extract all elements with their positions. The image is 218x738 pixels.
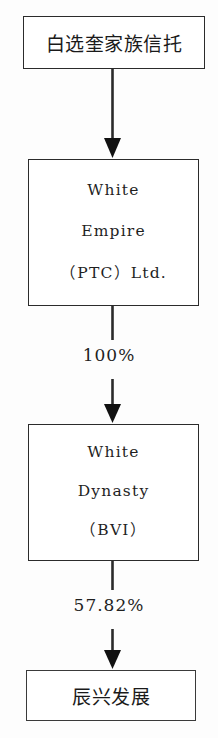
node-white-dynasty: White Dynasty （BVI）: [28, 424, 199, 561]
node-white-empire: White Empire （PTC）Ltd.: [28, 159, 199, 306]
node-white-empire-line-2: Empire: [81, 223, 146, 239]
node-chenxing-label: 辰兴发展: [72, 682, 150, 709]
node-trust: 白选奎家族信托: [23, 16, 205, 69]
edge-trust-to-white-empire: [104, 69, 121, 158]
node-white-dynasty-line-2: Dynasty: [78, 483, 150, 499]
node-trust-label: 白选奎家族信托: [46, 29, 183, 56]
node-white-dynasty-line-3: （BVI）: [80, 522, 147, 538]
edge-label-100-percent: 100%: [0, 345, 218, 365]
node-white-dynasty-line-1: White: [87, 444, 139, 460]
connector-layer: [0, 0, 218, 738]
node-chenxing: 辰兴发展: [26, 670, 196, 721]
ownership-structure-diagram: 白选奎家族信托 White Empire （PTC）Ltd. 100% Whit…: [0, 0, 218, 738]
node-white-empire-line-3: （PTC）Ltd.: [60, 265, 167, 281]
edge-label-57-82-percent: 57.82%: [0, 595, 218, 615]
edge-white-dynasty-to-chenxing: [104, 561, 121, 669]
node-white-empire-line-1: White: [87, 182, 139, 198]
